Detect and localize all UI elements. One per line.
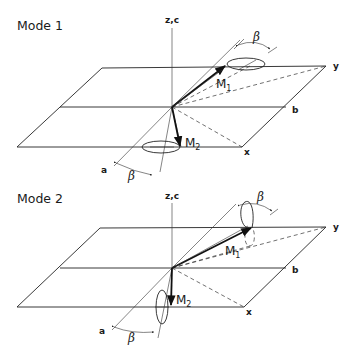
moment-m2-arrow [171, 268, 172, 305]
a-axis-label: a [99, 326, 105, 336]
precession-cone-m1 [227, 58, 265, 70]
y-axis-label: y [333, 61, 339, 71]
precession-cone-m1 [241, 201, 253, 228]
panel-mode-2: Mode 2 z,c M1 β M2 β [17, 190, 339, 345]
moment-m1-arrow [172, 228, 251, 268]
x-axis-label: x [246, 307, 252, 317]
m2-label: M2 [176, 293, 191, 309]
m2-label: M2 [185, 136, 200, 152]
spin-mode-diagram: Mode 1 z,c M1 β [0, 0, 349, 358]
y-axis-label: y [333, 222, 339, 232]
b-axis-label: b [292, 105, 299, 115]
m1-label: M1 [225, 244, 240, 260]
beta-bottom-label: β [127, 169, 135, 183]
a-axis [114, 107, 172, 166]
beta-top-label: β [252, 30, 260, 44]
beta-bottom-label: β [127, 331, 135, 345]
panel-title: Mode 1 [17, 18, 63, 33]
x-axis-label: x [244, 147, 250, 157]
a-axis-label: a [101, 165, 107, 175]
a-axis [112, 268, 172, 330]
beta-top-label: β [256, 190, 264, 204]
z-axis-label: z,c [165, 15, 179, 25]
m1-label: M1 [216, 77, 231, 93]
z-axis-label: z,c [165, 191, 179, 201]
panel-title: Mode 2 [17, 191, 63, 206]
b-axis-label: b [292, 265, 299, 275]
panel-mode-1: Mode 1 z,c M1 β [17, 15, 339, 183]
basal-plane [17, 66, 326, 147]
moment-m2-arrow [172, 107, 180, 146]
